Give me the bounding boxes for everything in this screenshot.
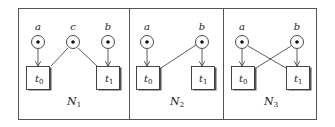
place-b: b (291, 21, 304, 49)
place-label: b (199, 21, 205, 32)
arc-b-t0 (256, 46, 291, 68)
transition-t0: t0 (232, 67, 257, 91)
net-label: N1 (66, 95, 81, 109)
place-label: a (144, 21, 150, 32)
place-a: a (236, 21, 249, 49)
transition-t1: t1 (192, 67, 217, 91)
place-b: b (196, 21, 209, 49)
token (36, 40, 40, 44)
net-n3: a b t0 t1 N3 (232, 21, 312, 109)
token (145, 40, 149, 44)
place-a: a (32, 21, 45, 49)
arc-c-t1 (78, 48, 97, 66)
token (295, 40, 299, 44)
net-label: N2 (169, 95, 184, 109)
place-label: b (294, 21, 300, 32)
token (240, 40, 244, 44)
token (200, 40, 204, 44)
transition-t1: t1 (287, 67, 312, 91)
token (71, 40, 75, 44)
net-n1: a c b t0 t1 N1 (27, 21, 122, 109)
net-label: N3 (263, 95, 278, 109)
place-b: b (102, 21, 115, 49)
transition-t0: t0 (27, 67, 52, 91)
arc-b-t0 (161, 45, 196, 68)
arc-c-t0 (51, 48, 68, 66)
transition-t0: t0 (137, 67, 162, 91)
place-label: c (70, 21, 76, 32)
net-n2: a b t0 t1 N2 (137, 21, 217, 109)
arc-a-t1 (248, 46, 286, 68)
token (106, 40, 110, 44)
place-c: c (67, 21, 80, 49)
place-label: a (239, 21, 245, 32)
place-label: a (35, 21, 41, 32)
place-label: b (105, 21, 111, 32)
petri-net-figure: a c b t0 t1 N1 (0, 0, 335, 127)
place-a: a (141, 21, 154, 49)
transition-t1: t1 (97, 67, 122, 91)
